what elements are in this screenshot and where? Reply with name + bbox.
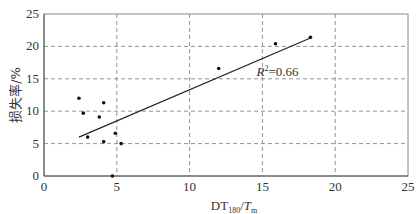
x-tick-label: 15 [256,179,269,194]
x-axis-label: DT180/Tm [211,198,258,214]
y-tick-label: 20 [26,38,39,53]
y-tick-label: 10 [26,103,39,118]
x-tick-label: 20 [329,179,342,194]
x-tick-label: 10 [183,179,196,194]
data-point [309,36,313,40]
data-point [102,140,106,144]
y-axis-label: 损失率/% [8,67,23,123]
data-point [217,67,221,71]
x-tick-label: 5 [114,179,121,194]
data-point [274,42,278,46]
y-tick-label: 15 [26,71,39,86]
plot-area [44,14,408,176]
y-tick-label: 0 [33,168,40,183]
x-tick-label: 25 [402,179,415,194]
data-point [98,115,102,119]
data-point [102,101,106,105]
data-point [77,96,81,100]
x-tick-label: 0 [41,179,48,194]
scatter-chart: 05101520250510152025R2=0.66DT180/Tm损失率/% [0,0,419,214]
data-point [114,131,118,135]
r-squared-annotation: R2=0.66 [256,64,300,79]
data-point [86,135,90,139]
data-point [111,174,115,178]
data-point [82,111,86,115]
data-point [119,142,123,146]
y-tick-label: 25 [26,6,39,21]
y-tick-label: 5 [33,136,40,151]
